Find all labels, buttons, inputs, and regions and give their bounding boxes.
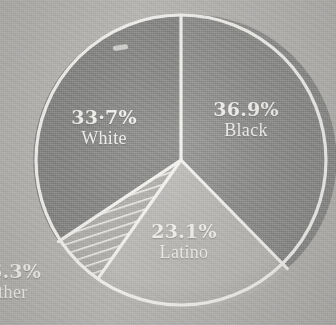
pie-value-other: 6.3% (0, 262, 75, 282)
pie-label-white: 33·7% White (52, 108, 156, 147)
pie-value-latino: 23.1% (134, 222, 234, 242)
pie-label-black: 36.9% Black (194, 100, 298, 139)
pie-category-other: other (0, 283, 75, 302)
pie-label-other: 6.3% other (0, 262, 75, 301)
pie-category-black: Black (194, 121, 298, 140)
pie-chart-figure: 36.9% Black 33·7% White 23.1% Latino 6.3… (0, 0, 336, 325)
pie-value-black: 36.9% (194, 100, 298, 120)
pie-category-latino: Latino (134, 243, 234, 262)
pie-label-latino: 23.1% Latino (134, 222, 234, 261)
pie-value-white: 33·7% (52, 108, 156, 128)
pie-category-white: White (52, 129, 156, 148)
